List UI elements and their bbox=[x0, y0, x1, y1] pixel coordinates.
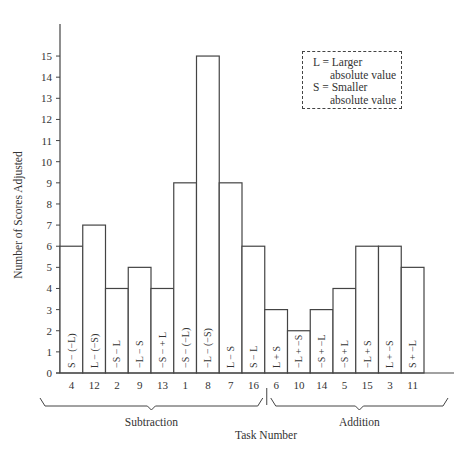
x-tick-label: 13 bbox=[157, 379, 169, 391]
group-label-subtraction: Subtraction bbox=[125, 416, 178, 428]
y-tick-label: 13 bbox=[41, 92, 53, 104]
bar-label: −L + −S bbox=[293, 335, 304, 368]
x-tick-label: 3 bbox=[387, 379, 393, 391]
bar-task-12: L − (−S) bbox=[83, 225, 106, 373]
x-tick-label: 14 bbox=[316, 379, 328, 391]
bar-label: L + −S bbox=[384, 340, 395, 368]
y-axis: 0123456789101112131415 bbox=[41, 24, 60, 379]
legend-larger: L = Larger bbox=[313, 56, 401, 69]
y-tick-label: 12 bbox=[41, 113, 52, 125]
x-tick-label: 2 bbox=[114, 379, 120, 391]
bar-label: S − L bbox=[248, 346, 259, 368]
y-tick-label: 14 bbox=[41, 71, 53, 83]
x-axis: 41229131871661014515311 bbox=[56, 373, 454, 391]
bar-task-7: L − S bbox=[219, 183, 242, 373]
bar-label: −L − (−S) bbox=[202, 328, 214, 368]
y-tick-label: 5 bbox=[47, 261, 53, 273]
y-axis-title: Number of Scores Adjusted bbox=[12, 151, 25, 279]
x-tick-label: 15 bbox=[362, 379, 374, 391]
x-tick-label: 16 bbox=[248, 379, 260, 391]
y-tick-label: 4 bbox=[47, 282, 53, 294]
x-tick-label: 5 bbox=[342, 379, 348, 391]
bar-task-14: −S + −L bbox=[310, 310, 333, 373]
brace-subtraction bbox=[40, 398, 263, 410]
bar-task-8: −L − (−S) bbox=[197, 56, 220, 373]
legend-smaller: S = Smaller bbox=[313, 81, 401, 94]
y-tick-label: 0 bbox=[47, 367, 53, 379]
y-tick-label: 6 bbox=[47, 240, 53, 252]
bar-task-10: −L + −S bbox=[288, 331, 311, 373]
legend-smaller-desc: absolute value bbox=[313, 94, 401, 107]
x-tick-label: 12 bbox=[89, 379, 100, 391]
x-tick-label: 8 bbox=[205, 379, 211, 391]
bar-task-2: −S − L bbox=[106, 288, 129, 373]
bar-task-11: S + −L bbox=[401, 267, 424, 373]
bar-label: −S − (−L) bbox=[180, 328, 192, 368]
group-braces: SubtractionAddition bbox=[40, 388, 448, 428]
y-tick-label: 10 bbox=[41, 156, 53, 168]
bar-task-15: −L + S bbox=[356, 246, 379, 373]
bar-label: L − (−S) bbox=[89, 334, 101, 368]
bar-label: S − (−L) bbox=[66, 333, 78, 368]
y-tick-label: 9 bbox=[47, 177, 53, 189]
bar-task-3: L + −S bbox=[379, 246, 402, 373]
y-tick-label: 2 bbox=[47, 325, 53, 337]
bar-chart: 0123456789101112131415 S − (−L)L − (−S)−… bbox=[0, 0, 474, 461]
y-tick-label: 7 bbox=[47, 219, 53, 231]
bar-task-6: L + S bbox=[265, 310, 288, 373]
x-tick-label: 11 bbox=[407, 379, 418, 391]
x-tick-label: 9 bbox=[137, 379, 143, 391]
bar-label: −S + −L bbox=[316, 334, 327, 368]
brace-addition bbox=[271, 398, 448, 410]
bar-label: S + −L bbox=[407, 340, 418, 368]
x-tick-label: 1 bbox=[182, 379, 188, 391]
bar-label: −L − S bbox=[134, 340, 145, 368]
bar-task-5: −S + L bbox=[333, 288, 356, 373]
x-tick-label: 4 bbox=[69, 379, 75, 391]
y-tick-label: 1 bbox=[47, 346, 53, 358]
bar-label: L + S bbox=[271, 346, 282, 368]
legend: L = Larger absolute value S = Smaller ab… bbox=[302, 51, 402, 109]
bar-task-1: −S − (−L) bbox=[174, 183, 197, 373]
legend-larger-desc: absolute value bbox=[313, 69, 401, 82]
bar-label: −L + S bbox=[362, 340, 373, 368]
x-axis-title: Task Number bbox=[235, 429, 297, 441]
y-tick-label: 11 bbox=[41, 135, 52, 147]
bar-label: −S + L bbox=[339, 340, 350, 368]
bar-task-9: −L − S bbox=[128, 267, 151, 373]
bar-label: L − S bbox=[225, 346, 236, 368]
y-tick-label: 8 bbox=[47, 198, 53, 210]
y-tick-label: 15 bbox=[41, 50, 53, 62]
bar-task-13: −S − + L bbox=[151, 288, 174, 373]
bar-task-4: S − (−L) bbox=[60, 246, 83, 373]
x-tick-label: 6 bbox=[273, 379, 279, 391]
x-tick-label: 7 bbox=[228, 379, 234, 391]
bar-label: −S − + L bbox=[157, 332, 168, 368]
x-tick-label: 10 bbox=[293, 379, 305, 391]
group-label-addition: Addition bbox=[339, 416, 380, 428]
bar-label: −S − L bbox=[111, 340, 122, 368]
bar-task-16: S − L bbox=[242, 246, 265, 373]
y-tick-label: 3 bbox=[47, 304, 53, 316]
